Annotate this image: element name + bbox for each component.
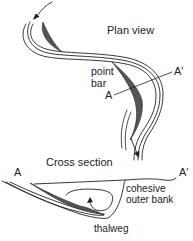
thalweg-label: thalweg xyxy=(94,223,128,234)
channel-lower-lines xyxy=(121,110,131,150)
channel-banks-plan xyxy=(23,22,163,160)
channel-bed-layers xyxy=(2,180,126,218)
point-bar-upper xyxy=(42,22,62,52)
point-bar-label-line1: point xyxy=(91,65,114,77)
cross-section: Cross section A A′ cohesive outer bank t… xyxy=(2,156,188,234)
section-end-label: A′ xyxy=(174,65,183,77)
bank-label-line1: cohesive xyxy=(126,183,166,194)
plan-view-title: Plan view xyxy=(107,24,154,36)
section-start-label: A xyxy=(105,89,113,101)
plan-view: Plan view point bar A A′ xyxy=(23,2,183,160)
meander-diagram: Plan view point bar A A′ Cross section A… xyxy=(0,0,193,241)
point-bar-label-line2: bar xyxy=(91,77,107,89)
diagram-canvas: Plan view point bar A A′ Cross section A… xyxy=(0,0,193,241)
flow-arrow-icon-inflow xyxy=(33,2,52,20)
point-bar-main xyxy=(112,62,142,140)
cross-section-left-label: A xyxy=(14,166,22,178)
bank-label-line2: outer bank xyxy=(126,194,174,205)
cross-section-title: Cross section xyxy=(46,156,113,168)
cross-section-right-label: A′ xyxy=(179,166,188,178)
